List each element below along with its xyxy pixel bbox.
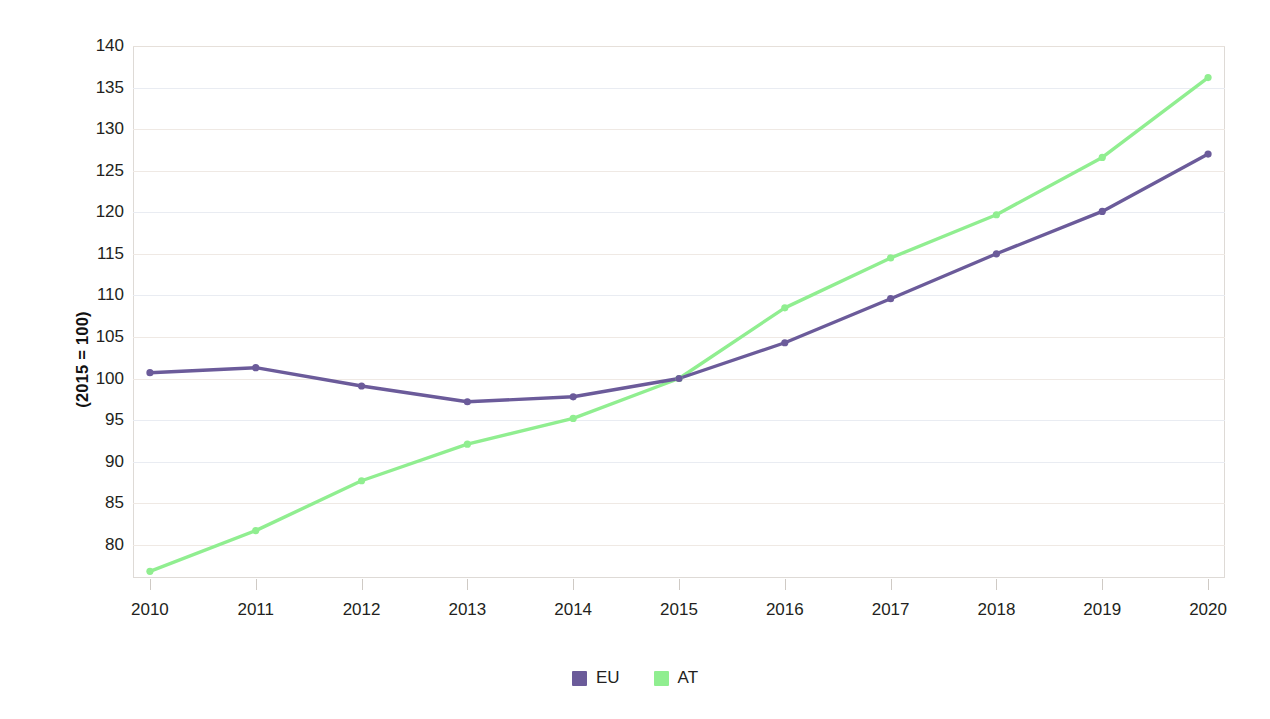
series-line-at: [150, 78, 1208, 572]
x-tick-mark: [573, 579, 574, 590]
x-tick-mark: [1102, 579, 1103, 590]
x-tick-label: 2010: [105, 600, 195, 620]
x-tick-mark: [996, 579, 997, 590]
data-point-at-2016: [781, 304, 788, 311]
x-tick-mark: [362, 579, 363, 590]
x-tick-label: 2017: [846, 600, 936, 620]
y-tick-label: 95: [64, 410, 124, 430]
data-point-eu-2010: [146, 369, 153, 376]
x-tick-mark: [467, 579, 468, 590]
x-tick-label: 2014: [528, 600, 618, 620]
data-point-at-2019: [1099, 154, 1106, 161]
x-tick-label: 2019: [1057, 600, 1147, 620]
legend-item-at[interactable]: AT: [654, 668, 698, 688]
plot-area: [133, 46, 1225, 578]
x-tick-label: 2015: [634, 600, 724, 620]
y-tick-label: 125: [64, 161, 124, 181]
data-point-at-2014: [570, 415, 577, 422]
data-point-eu-2016: [781, 339, 788, 346]
x-tick-label: 2020: [1163, 600, 1253, 620]
data-point-at-2020: [1204, 74, 1211, 81]
x-tick-label: 2018: [951, 600, 1041, 620]
x-tick-label: 2012: [317, 600, 407, 620]
x-tick-label: 2011: [211, 600, 301, 620]
legend-label: EU: [596, 668, 620, 688]
data-point-eu-2018: [993, 250, 1000, 257]
x-tick-label: 2013: [422, 600, 512, 620]
legend-label: AT: [678, 668, 698, 688]
data-point-at-2010: [146, 568, 153, 575]
y-tick-label: 115: [64, 244, 124, 264]
y-tick-label: 140: [64, 36, 124, 56]
x-tick-mark: [785, 579, 786, 590]
x-tick-mark: [679, 579, 680, 590]
data-point-at-2017: [887, 254, 894, 261]
data-point-eu-2012: [358, 382, 365, 389]
y-axis-title: (2015 = 100): [52, 0, 112, 719]
y-tick-label: 130: [64, 119, 124, 139]
data-point-at-2013: [464, 441, 471, 448]
data-point-eu-2014: [570, 393, 577, 400]
chart-container: (2015 = 100) 808590951001051101151201251…: [0, 0, 1270, 719]
data-point-eu-2015: [675, 375, 682, 382]
chart-legend: EUAT: [0, 668, 1270, 688]
data-point-at-2012: [358, 477, 365, 484]
y-tick-label: 110: [64, 285, 124, 305]
y-tick-label: 135: [64, 78, 124, 98]
series-layer: [133, 46, 1225, 578]
legend-swatch-icon: [654, 671, 669, 686]
x-tick-mark: [1208, 579, 1209, 590]
y-tick-label: 85: [64, 493, 124, 513]
y-tick-label: 120: [64, 202, 124, 222]
data-point-at-2011: [252, 527, 259, 534]
y-tick-label: 105: [64, 327, 124, 347]
data-point-eu-2013: [464, 398, 471, 405]
y-tick-label: 90: [64, 452, 124, 472]
x-tick-mark: [256, 579, 257, 590]
data-point-eu-2019: [1099, 208, 1106, 215]
x-tick-label: 2016: [740, 600, 830, 620]
data-point-eu-2020: [1204, 150, 1211, 157]
x-tick-mark: [891, 579, 892, 590]
y-tick-label: 100: [64, 369, 124, 389]
data-point-at-2018: [993, 211, 1000, 218]
legend-swatch-icon: [572, 671, 587, 686]
data-point-eu-2017: [887, 295, 894, 302]
y-tick-label: 80: [64, 535, 124, 555]
series-line-eu: [150, 154, 1208, 402]
data-point-eu-2011: [252, 364, 259, 371]
legend-item-eu[interactable]: EU: [572, 668, 620, 688]
x-tick-mark: [150, 579, 151, 590]
